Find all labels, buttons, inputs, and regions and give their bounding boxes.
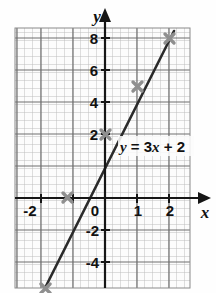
x-tick-label-1: 1	[134, 202, 142, 219]
y-tick-label-2: 2	[90, 126, 98, 143]
y-axis-label: y	[91, 7, 101, 26]
equation-label: y = 3x + 2	[118, 138, 185, 155]
y-tick-label-6: 6	[90, 62, 98, 79]
x-tick-label-2: 2	[166, 202, 174, 219]
x-tick-label-neg2: -2	[23, 202, 36, 219]
coordinate-graph-figure: 8 6 4 2 -2 -4 -2 0 1 2 y x y = 3x + 2	[0, 0, 216, 293]
x-axis-label: x	[200, 203, 210, 222]
x-tick-label-0: 0	[91, 202, 99, 219]
equation-y: y	[118, 139, 127, 155]
y-tick-label-4: 4	[90, 94, 99, 111]
y-tick-label-neg4: -4	[86, 254, 100, 271]
y-axis-arrow	[99, 8, 111, 22]
graph-canvas: 8 6 4 2 -2 -4 -2 0 1 2 y x y = 3x + 2	[0, 0, 216, 293]
y-tick-label-neg2: -2	[86, 222, 99, 239]
equation-eq: = 3	[127, 138, 152, 155]
equation-tail: + 2	[160, 138, 185, 155]
y-tick-label-8: 8	[90, 30, 98, 47]
